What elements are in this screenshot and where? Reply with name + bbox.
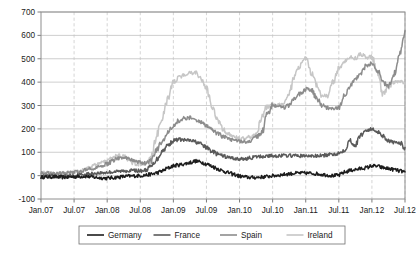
series-line-spain <box>41 31 405 175</box>
x-axis-tick-label: Jul.07 <box>63 206 85 215</box>
x-axis-tick-label: Jan.11 <box>294 206 318 215</box>
y-axis-tick-label: 500 <box>21 55 35 64</box>
legend-label-germany[interactable]: Germany <box>108 231 143 240</box>
legend-label-ireland[interactable]: Ireland <box>308 231 333 240</box>
x-axis-tick-label: Jul.11 <box>328 206 350 215</box>
x-axis-tick-label: Jul.09 <box>196 206 218 215</box>
x-axis-tick-label: Jul.08 <box>129 206 151 215</box>
legend-label-france[interactable]: France <box>175 231 201 240</box>
line-chart: 7006005004003002001000-100Jan.07Jul.07Ja… <box>0 0 418 253</box>
y-axis-tick-label: -100 <box>19 195 36 204</box>
x-axis-tick-label: Jul.10 <box>262 206 284 215</box>
y-axis-tick-label: 300 <box>21 102 35 111</box>
x-axis-tick-label: Jul.12 <box>394 206 416 215</box>
legend-label-spain[interactable]: Spain <box>241 231 262 240</box>
y-axis-tick-label: 200 <box>21 125 35 134</box>
x-axis-tick-label: Jan.09 <box>161 206 186 215</box>
y-axis-tick-label: 700 <box>21 8 35 17</box>
y-axis-tick-label: 100 <box>21 148 35 157</box>
x-axis-tick-label: Jan.07 <box>29 206 54 215</box>
series-line-germany <box>41 160 405 180</box>
x-axis-tick-label: Jan.08 <box>95 206 120 215</box>
y-axis-tick-label: 400 <box>21 78 35 87</box>
y-axis-tick-label: 0 <box>30 172 35 181</box>
x-axis-tick-label: Jan.12 <box>360 206 385 215</box>
y-axis-tick-label: 600 <box>21 31 35 40</box>
chart-legend: GermanyFranceSpainIreland <box>79 226 345 244</box>
x-axis-tick-label: Jan.10 <box>227 206 252 215</box>
chart-container: 7006005004003002001000-100Jan.07Jul.07Ja… <box>0 0 418 253</box>
